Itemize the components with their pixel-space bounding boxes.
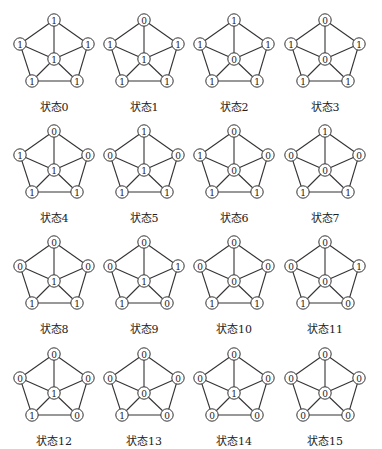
state-graph-2: 111011 状态2 [184,0,284,112]
node-bottom-right: 0 [161,297,173,309]
node-right: 0 [82,260,94,272]
node-value: 0 [254,411,260,421]
node-value: 0 [175,151,181,161]
node-bottom-left: 1 [206,75,218,87]
node-bottom-right: 1 [251,297,263,309]
pentagon-graph: 000100 [184,334,284,434]
node-value: 0 [164,299,170,309]
node-value: 1 [254,77,260,87]
node-left: 0 [194,260,206,272]
node-value: 0 [288,374,294,384]
node-value: 1 [51,16,57,26]
state-graph-7: 100011 状态7 [275,111,375,223]
node-value: 0 [51,350,57,360]
node-left: 1 [104,38,116,50]
node-right: 0 [262,372,274,384]
node-bottom-right: 1 [71,186,83,198]
node-value: 0 [17,262,23,272]
node-value: 0 [141,350,147,360]
node-value: 0 [209,411,215,421]
node-value: 0 [288,151,294,161]
node-left: 0 [194,372,206,384]
node-left: 0 [285,260,297,272]
node-value: 0 [231,55,237,65]
node-value: 1 [345,77,351,87]
node-value: 0 [345,411,351,421]
state-graph-13: 000010 状态13 [94,334,194,446]
pentagon-graph: 111011 [184,0,284,100]
node-top: 0 [319,348,331,360]
node-value: 0 [322,277,328,287]
graph-edges [200,242,268,303]
node-value: 0 [74,411,80,421]
pentagon-graph: 111111 [4,0,104,100]
graph-edges [200,354,268,415]
state-label: 状态14 [184,432,284,448]
node-top: 0 [138,14,150,26]
pentagon-graph: 001010 [275,222,375,322]
node-bottom-left: 1 [116,186,128,198]
graph-edges [291,20,359,81]
node-center: 1 [48,53,60,65]
node-left: 1 [194,38,206,50]
node-top: 0 [228,348,240,360]
state-graph-15: 000000 状态15 [275,334,375,446]
node-value: 1 [209,299,215,309]
node-value: 1 [300,188,306,198]
node-value: 1 [29,299,35,309]
pentagon-graph: 000110 [4,334,104,434]
node-bottom-left: 1 [297,297,309,309]
node-center: 0 [319,387,331,399]
node-left: 0 [14,372,26,384]
node-top: 0 [138,236,150,248]
node-value: 1 [119,77,125,87]
node-center: 0 [319,53,331,65]
node-left: 0 [104,260,116,272]
node-top: 0 [48,236,60,248]
node-left: 0 [104,149,116,161]
node-bottom-left: 1 [116,75,128,87]
node-left: 0 [285,372,297,384]
node-value: 0 [231,350,237,360]
node-value: 1 [74,77,80,87]
node-right: 1 [262,38,274,50]
node-center: 1 [138,53,150,65]
node-bottom-right: 0 [342,409,354,421]
node-value: 1 [141,55,147,65]
node-value: 0 [141,238,147,248]
state-diagram-grid: 111111 状态0 011111 状态1 111011 状态2 011011 … [0,0,382,449]
node-bottom-left: 1 [116,297,128,309]
node-value: 0 [107,151,113,161]
node-center: 1 [138,275,150,287]
node-bottom-left: 1 [116,409,128,421]
node-value: 1 [85,40,91,50]
node-value: 1 [356,262,362,272]
node-value: 0 [231,127,237,137]
node-right: 0 [353,149,365,161]
node-value: 0 [231,166,237,176]
node-right: 0 [172,149,184,161]
pentagon-graph: 000011 [184,222,284,322]
node-value: 1 [51,277,57,287]
pentagon-graph: 011011 [275,0,375,100]
node-bottom-left: 1 [297,186,309,198]
graph-edges [291,242,359,303]
node-top: 0 [138,348,150,360]
node-right: 0 [82,372,94,384]
node-left: 1 [14,38,26,50]
node-value: 0 [322,238,328,248]
node-value: 1 [29,188,35,198]
node-value: 0 [345,299,351,309]
state-graph-10: 000011 状态10 [184,222,284,334]
graph-edges [110,20,178,81]
node-bottom-left: 1 [206,297,218,309]
node-value: 1 [29,77,35,87]
node-value: 1 [322,127,328,137]
node-bottom-left: 0 [206,409,218,421]
node-right: 0 [353,372,365,384]
node-top: 1 [48,14,60,26]
node-center: 1 [48,387,60,399]
node-value: 1 [164,77,170,87]
node-bottom-right: 0 [71,409,83,421]
state-graph-5: 100111 状态5 [94,111,194,223]
